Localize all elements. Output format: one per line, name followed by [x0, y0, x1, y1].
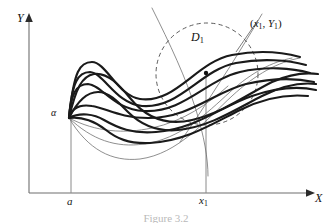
axes-group — [25, 13, 315, 197]
diagram-canvas — [0, 0, 332, 223]
point-label-close: ) — [278, 17, 282, 29]
y-axis-label: Y — [17, 12, 24, 24]
tick-label-a: a — [67, 196, 73, 207]
region-label-d1: D1 — [191, 31, 204, 45]
x-axis-label: X — [315, 192, 322, 204]
thick-curve-4 — [69, 79, 314, 118]
x-axis-arrowhead — [306, 189, 315, 197]
figure-container: Y X a x1 α D1 (x1, Y1) Figure 3.2 — [0, 0, 332, 223]
alpha-point-label: α — [51, 108, 56, 118]
figure-caption: Figure 3.2 — [0, 212, 332, 223]
region-label-base: D — [191, 30, 200, 44]
thick-curves-group — [69, 52, 318, 143]
region-label-subscript: 1 — [200, 36, 204, 45]
tick-label-x1-subscript: 1 — [204, 199, 208, 208]
tick-label-x1: x1 — [199, 195, 208, 207]
point-label-x1-y1: (x1, Y1) — [250, 18, 282, 30]
y-axis-arrowhead — [25, 13, 33, 22]
point-marker-x1-y1 — [204, 71, 208, 75]
